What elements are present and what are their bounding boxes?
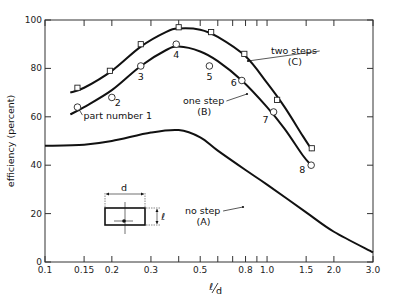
square-marker <box>138 42 143 47</box>
svg-text:ℓ: ℓ <box>209 281 213 292</box>
x-tick-label: 0.15 <box>74 265 94 275</box>
circle-marker <box>239 77 246 84</box>
part-number-leader <box>79 110 82 115</box>
point-label-6: 6 <box>231 77 237 88</box>
y-tick-label: 60 <box>31 112 43 122</box>
x-tick-label: 3.0 <box>366 265 381 275</box>
efficiency-chart: 0.10.150.20.30.50.81.01.52.03.0 02040608… <box>0 0 398 299</box>
label-no-step-line1: no step <box>185 205 220 216</box>
label-no-step-leader <box>223 207 243 211</box>
point-label-4: 4 <box>173 49 179 60</box>
series-a-curve <box>45 130 373 252</box>
label-one-step-leader <box>226 94 247 101</box>
square-marker <box>309 146 314 151</box>
circle-marker <box>308 162 315 169</box>
y-axis-label: efficiency (percent) <box>5 95 16 187</box>
circle-marker <box>173 41 180 48</box>
circle-marker <box>74 104 81 111</box>
x-axis-ticks: 0.10.150.20.30.50.81.01.52.03.0 <box>38 20 381 275</box>
point-label-5: 5 <box>206 71 212 82</box>
svg-text:d: d <box>216 285 222 296</box>
point-label-7: 7 <box>263 114 269 125</box>
square-marker <box>75 85 80 90</box>
x-tick-label: 0.8 <box>238 265 253 275</box>
x-tick-label: 0.5 <box>193 265 207 275</box>
label-one-step-arrowhead <box>246 93 248 95</box>
circle-marker <box>206 63 213 70</box>
point-label-2: 2 <box>115 97 121 108</box>
x-tick-label: 0.3 <box>144 265 158 275</box>
y-tick-label: 0 <box>36 257 42 267</box>
point-label-3: 3 <box>138 71 144 82</box>
square-marker <box>176 25 181 30</box>
label-no-step-line2: (A) <box>197 216 211 227</box>
label-no-step-arrowhead <box>242 206 244 208</box>
label-one-step-line2: (B) <box>197 106 211 117</box>
svg-text:ℓ: ℓ <box>161 211 165 222</box>
circle-marker <box>270 109 277 116</box>
svg-text:d: d <box>121 182 127 193</box>
x-tick-label: 1.0 <box>260 265 275 275</box>
y-tick-label: 100 <box>25 15 42 25</box>
y-tick-label: 80 <box>31 63 43 73</box>
y-axis-ticks: 020406080100 <box>25 15 373 267</box>
x-axis-label: ℓ d <box>209 281 222 296</box>
label-two-steps-line2: (C) <box>288 56 302 67</box>
x-tick-label: 1.5 <box>299 265 313 275</box>
label-one-step-line1: one step <box>183 95 224 106</box>
x-tick-label: 2.0 <box>327 265 342 275</box>
cross-section-inset: d ℓ <box>105 182 165 234</box>
circle-marker <box>137 63 144 70</box>
square-marker <box>275 97 280 102</box>
x-tick-label: 0.2 <box>105 265 119 275</box>
point-label-8: 8 <box>299 164 305 175</box>
square-marker <box>242 51 247 56</box>
y-tick-label: 20 <box>31 209 43 219</box>
square-marker <box>107 68 112 73</box>
square-marker <box>209 30 214 35</box>
y-tick-label: 40 <box>31 160 43 170</box>
label-two-steps-arrowhead <box>247 60 249 62</box>
part-number-label: part number 1 <box>83 110 152 121</box>
